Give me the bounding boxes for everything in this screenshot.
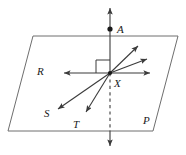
label-point-a: A (117, 24, 124, 35)
label-point-x: X (114, 78, 121, 89)
label-ray-r: R (37, 66, 44, 77)
geometry-figure: A X R S T P (0, 0, 186, 155)
label-plane-p: P (143, 115, 150, 126)
ray-t (86, 73, 110, 112)
point-x-dot (108, 71, 112, 75)
ray-northeast-steep (110, 46, 138, 73)
point-a-dot (107, 26, 112, 31)
ray-s (58, 73, 110, 109)
diagram-canvas (0, 0, 186, 155)
plane-outline (8, 36, 178, 131)
label-ray-t: T (73, 119, 79, 130)
right-angle-marker (96, 60, 110, 73)
label-ray-s: S (44, 108, 50, 119)
ray-northeast-shallow (110, 59, 147, 73)
